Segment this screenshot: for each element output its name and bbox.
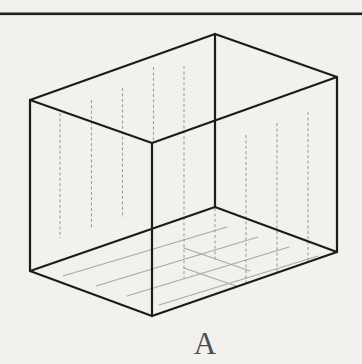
box-diagram-svg xyxy=(0,0,362,364)
figure-panel: A xyxy=(0,0,362,364)
top-rule xyxy=(0,13,362,16)
page-background xyxy=(0,0,362,364)
